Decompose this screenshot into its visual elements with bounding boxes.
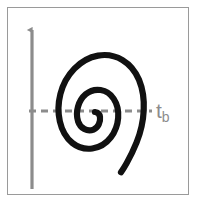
time-label-base: t <box>156 99 162 122</box>
time-label-subscript: b <box>162 109 170 125</box>
inward-spiral-curve <box>59 55 144 172</box>
time-label-tb: tb <box>156 100 170 121</box>
figure-root: tb <box>0 0 197 203</box>
